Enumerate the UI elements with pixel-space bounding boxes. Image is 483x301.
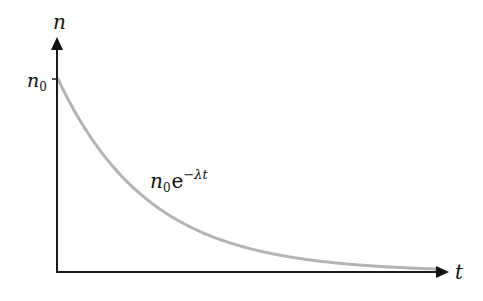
x-axis-label: t: [455, 260, 464, 284]
x-axis-arrow-icon: [436, 266, 449, 278]
y-axis-label: n: [53, 10, 66, 34]
curve-label: n0e−λt: [150, 167, 209, 195]
y-tick-label: n0: [27, 69, 47, 94]
y-axis-arrow-icon: [51, 37, 63, 50]
decay-chart: n n0 t n0e−λt: [0, 0, 483, 301]
exponential-decay-curve: [58, 79, 436, 269]
